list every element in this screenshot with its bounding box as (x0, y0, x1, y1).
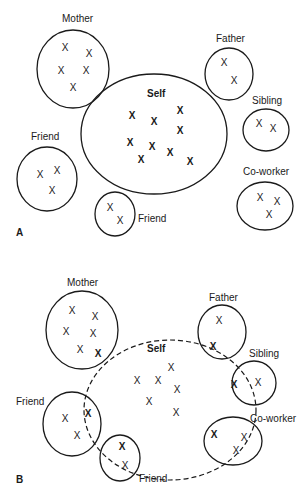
mother-label: Mother (67, 277, 99, 288)
self-label: Self (147, 88, 166, 99)
mark: X (63, 326, 70, 337)
panel-b-coworker: Co-worker X X X (204, 413, 297, 465)
mark: X (231, 75, 238, 86)
mark: X (256, 118, 263, 129)
mark: X (117, 215, 124, 226)
panel-a-father: Father X X (205, 33, 253, 100)
mark: X (177, 105, 184, 116)
mark: X (270, 123, 277, 134)
self-label: Self (147, 343, 166, 354)
mark: X (187, 156, 194, 167)
mark: X (90, 328, 97, 339)
panel-a-label: A (16, 227, 23, 238)
mark: X (151, 116, 158, 127)
father-circle (205, 48, 253, 100)
friend-left-circle (43, 392, 101, 456)
mark: X (149, 141, 156, 152)
mark: X (233, 445, 240, 456)
mark: X (95, 348, 102, 359)
self-construal-diagram: Mother X X X X X Father X X Self X X X X… (0, 0, 308, 500)
mark: X (134, 375, 141, 386)
mother-label: Mother (62, 13, 94, 24)
panel-b-mother: Mother X X X X X X (46, 277, 118, 369)
mother-circle (37, 30, 109, 108)
mark: X (129, 110, 136, 121)
friend-bottom-label: Friend (139, 473, 167, 484)
panel-a-mother: Mother X X X X X (37, 13, 109, 108)
mark: X (122, 460, 129, 471)
mark: X (266, 209, 273, 220)
panel-a: Mother X X X X X Father X X Self X X X X… (16, 13, 293, 238)
coworker-circle (204, 417, 262, 465)
panel-a-friend-bottom: X X Friend (95, 192, 166, 236)
panel-a-friend-left: Friend X X X (17, 131, 77, 211)
mark: X (49, 185, 56, 196)
coworker-label: Co-worker (243, 166, 290, 177)
mark: X (221, 57, 228, 68)
father-label: Father (216, 33, 246, 44)
sibling-label: Sibling (249, 348, 279, 359)
coworker-label: Co-worker (250, 413, 297, 424)
friend-left-circle (17, 147, 77, 211)
panel-b-self: Self X X X X X X (134, 343, 181, 418)
mark: X (107, 202, 114, 213)
mark: X (77, 344, 84, 355)
mark: X (86, 48, 93, 59)
mark: X (173, 407, 180, 418)
mark: X (119, 441, 126, 452)
mark: X (216, 315, 223, 326)
mark: X (241, 432, 248, 443)
mark: X (210, 341, 217, 352)
mark: X (174, 384, 181, 395)
mark: X (62, 42, 69, 53)
sibling-label: Sibling (252, 95, 282, 106)
mark: X (168, 362, 175, 373)
sibling-circle (243, 109, 289, 151)
panel-a-sibling: Sibling X X (243, 95, 289, 151)
mark: X (83, 65, 90, 76)
mark: X (70, 82, 77, 93)
mark: X (177, 125, 184, 136)
mark: X (146, 396, 153, 407)
mark: X (255, 377, 262, 388)
mark: X (274, 196, 281, 207)
mark: X (211, 429, 218, 440)
mark: X (138, 154, 145, 165)
panel-b: Self X X X X X X Mother X X X X X X Fath… (16, 277, 297, 485)
father-label: Father (209, 292, 239, 303)
mark: X (167, 147, 174, 158)
mark: X (155, 375, 162, 386)
mark: X (127, 137, 134, 148)
friend-left-label: Friend (31, 131, 59, 142)
friend-bottom-label: Friend (138, 213, 166, 224)
mark: X (92, 311, 99, 322)
panel-a-coworker: Co-worker X X X (237, 166, 293, 230)
mark: X (231, 379, 238, 390)
panel-b-label: B (16, 474, 23, 485)
mark: X (62, 413, 69, 424)
panel-b-sibling: Sibling X X (231, 348, 279, 405)
friend-bottom-circle (95, 192, 135, 236)
panel-b-father: Father X X (198, 292, 246, 359)
panel-b-friend-left: Friend X X X (16, 392, 101, 456)
mark: X (69, 305, 76, 316)
coworker-circle (237, 182, 293, 230)
friend-left-label: Friend (16, 396, 44, 407)
mark: X (37, 169, 44, 180)
mother-circle (46, 291, 118, 369)
mark: X (74, 430, 81, 441)
mark: X (85, 408, 92, 419)
mark: X (257, 192, 264, 203)
father-circle (198, 305, 246, 359)
mark: X (54, 165, 61, 176)
mark: X (58, 65, 65, 76)
